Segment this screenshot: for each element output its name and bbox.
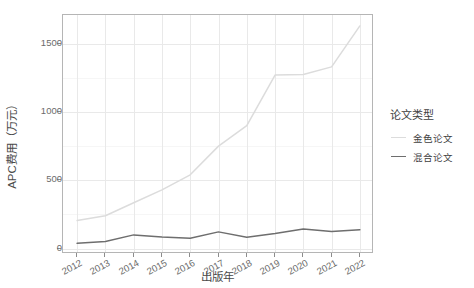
line-chart: APC费用（万元） 050010001500 20122013201420152… [0,0,474,288]
series-line-gold [77,26,360,221]
legend-item[interactable]: 金色论文 [390,129,474,146]
plot-panel [62,14,373,253]
series-layer [63,15,373,253]
y-tick-label: 500 [46,174,62,184]
x-tick-mark [359,253,360,257]
y-tick-label: 1000 [41,106,62,116]
x-tick-mark [133,253,134,257]
legend-item[interactable]: 混合论文 [390,148,474,165]
legend: 论文类型 金色论文混合论文 [390,106,474,167]
series-line-hybrid [77,229,360,243]
legend-item-label: 金色论文 [413,131,453,145]
legend-items: 金色论文混合论文 [390,129,474,165]
x-tick-mark [218,253,219,257]
y-tick-label: 1500 [41,38,62,48]
x-tick-mark [274,253,275,257]
x-tick-mark [161,253,162,257]
legend-item-label: 混合论文 [413,150,453,164]
x-axis-title: 出版年 [62,268,373,284]
y-axis-title: APC费用（万元） [0,0,22,288]
x-tick-mark [76,253,77,257]
legend-title: 论文类型 [390,106,474,122]
x-tick-mark [246,253,247,257]
x-tick-mark [331,253,332,257]
line-key-hybrid-icon [390,150,407,164]
line-key-gold-icon [390,131,407,145]
